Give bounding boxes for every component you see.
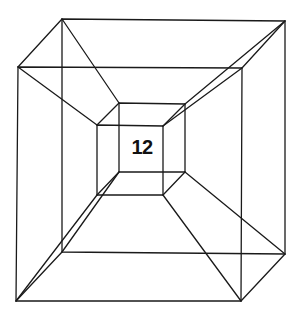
outer-back-square (62, 19, 285, 254)
hypercube-drawing (0, 0, 301, 318)
outer-front-square (16, 67, 242, 301)
figure-number-label: 12 (120, 136, 164, 159)
outer-connecting-edges (16, 19, 285, 301)
